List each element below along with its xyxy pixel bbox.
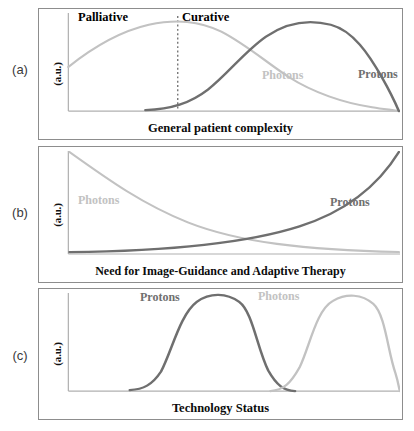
annotation-protons-a: Protons — [358, 67, 398, 82]
y-axis-label-b: (a.u.) — [51, 203, 63, 226]
panel-tag-c: (c) — [4, 348, 36, 363]
annotation-protons-b: Protons — [330, 195, 370, 210]
x-axis-title-a: General patient complexity — [39, 121, 402, 136]
x-axis-title-b: Need for Image-Guidance and Adaptive The… — [39, 264, 402, 279]
curve-protons-c — [130, 295, 295, 391]
y-axis-label-c: (a.u.) — [51, 342, 63, 365]
plot-svg-a — [65, 13, 400, 117]
panel-c: (a.u.) Technology Status — [38, 288, 403, 420]
panel-tag-a: (a) — [4, 62, 36, 77]
annotation-protons-c: Protons — [140, 290, 180, 305]
y-axis-label-a: (a.u.) — [51, 62, 63, 85]
annotation-photons-a: Photons — [262, 68, 303, 83]
curve-photons-c — [270, 296, 400, 391]
annotation-photons-c: Photons — [258, 289, 299, 304]
plot-area-a — [65, 13, 400, 117]
plot-area-c — [65, 293, 400, 397]
x-axis-title-c: Technology Status — [39, 401, 402, 416]
annotation-photons-b: Photons — [78, 193, 119, 208]
plot-svg-c — [65, 293, 400, 397]
annotation-curative: Curative — [182, 10, 229, 25]
panel-a: (a.u.) General patient complexity — [38, 8, 403, 140]
panel-b: (a.u.) Need for Image-Guidance and Adapt… — [38, 146, 403, 283]
annotation-palliative: Palliative — [78, 10, 128, 25]
panel-tag-b: (b) — [4, 205, 36, 220]
figure-container: (a) (a.u.) General patient complexity Pa… — [0, 0, 414, 431]
